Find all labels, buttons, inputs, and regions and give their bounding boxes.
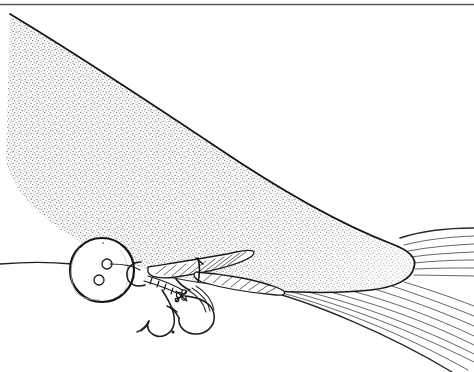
hook-barb-dot xyxy=(171,330,174,333)
illustration-canvas xyxy=(0,0,474,372)
bubble-inner-dot-2 xyxy=(94,275,104,285)
bubble-highlight-speck xyxy=(102,242,104,244)
bubble-disc xyxy=(70,238,134,302)
ink-illustration-svg xyxy=(0,0,474,372)
